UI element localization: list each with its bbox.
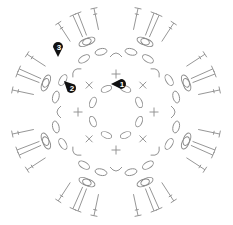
chain-stitch-oval bbox=[181, 132, 192, 147]
double-crochet bbox=[25, 158, 45, 173]
crochet-chart: 123 bbox=[0, 0, 233, 225]
chain-stitch-oval bbox=[172, 120, 181, 133]
single-crochet-plus bbox=[112, 146, 121, 155]
double-crochet bbox=[55, 182, 70, 202]
double-crochet bbox=[149, 14, 162, 37]
chain-stitch-oval bbox=[40, 77, 51, 92]
chain-stitch-oval bbox=[134, 115, 144, 127]
double-crochet bbox=[162, 182, 177, 202]
chain-stitch-oval bbox=[124, 47, 137, 56]
chain-stitch-oval bbox=[78, 176, 93, 187]
double-crochet bbox=[12, 87, 34, 95]
chain-stitch-oval bbox=[100, 84, 112, 94]
chain-arc bbox=[151, 66, 162, 77]
single-crochet-x bbox=[86, 135, 93, 142]
marker-3-text: 3 bbox=[57, 43, 62, 52]
double-crochet bbox=[70, 14, 83, 37]
chain-stitch-oval bbox=[124, 168, 137, 177]
chain-arc bbox=[171, 106, 175, 118]
single-crochet-x bbox=[139, 135, 146, 142]
round-markers: 123 bbox=[53, 42, 126, 95]
chain-stitch-oval bbox=[140, 176, 155, 187]
chain-stitch-oval bbox=[94, 47, 107, 56]
chain-stitch-oval bbox=[134, 96, 144, 108]
chain-stitch-oval bbox=[163, 73, 175, 87]
marker-1-text: 1 bbox=[120, 80, 125, 89]
chain-stitch-oval bbox=[88, 115, 98, 127]
round-marker-2: 2 bbox=[60, 77, 78, 95]
chain-stitch-oval bbox=[100, 130, 112, 140]
chain-stitch-oval bbox=[78, 37, 93, 48]
double-crochet bbox=[198, 129, 220, 137]
chain-stitch-oval bbox=[51, 120, 60, 133]
double-crochet bbox=[12, 129, 34, 137]
chain-arc bbox=[110, 167, 122, 171]
chain-stitch-oval bbox=[94, 168, 107, 177]
double-crochet bbox=[133, 194, 141, 216]
chain-stitch-oval bbox=[41, 136, 52, 151]
chain-arc bbox=[70, 66, 81, 77]
single-crochet-plus bbox=[112, 70, 121, 79]
single-crochet-x bbox=[86, 82, 93, 89]
round-marker-3: 3 bbox=[53, 42, 63, 57]
double-crochet bbox=[91, 8, 99, 30]
chain-stitch-oval bbox=[180, 74, 191, 89]
chain-stitch-oval bbox=[88, 96, 98, 108]
chain-stitch-oval bbox=[119, 130, 131, 140]
chain-arc bbox=[57, 106, 61, 118]
stitch-symbols bbox=[12, 8, 221, 217]
chain-stitch-oval bbox=[136, 36, 151, 47]
chain-stitch-oval bbox=[77, 159, 91, 171]
single-crochet-plus bbox=[150, 108, 159, 117]
double-crochet bbox=[91, 194, 99, 216]
double-crochet bbox=[162, 21, 177, 41]
chain-stitch-oval bbox=[140, 37, 155, 48]
round-marker-1: 1 bbox=[111, 79, 126, 89]
chain-stitch-oval bbox=[141, 159, 155, 171]
double-crochet bbox=[191, 66, 214, 79]
double-crochet bbox=[70, 187, 83, 210]
chain-arc bbox=[110, 53, 122, 57]
double-crochet bbox=[18, 145, 41, 158]
double-crochet bbox=[198, 87, 220, 95]
chain-stitch-oval bbox=[172, 90, 181, 103]
double-crochet bbox=[55, 21, 70, 41]
single-crochet-x bbox=[139, 82, 146, 89]
chain-arc bbox=[151, 147, 162, 158]
double-crochet bbox=[149, 187, 162, 210]
double-crochet bbox=[186, 51, 206, 66]
chain-stitch-oval bbox=[81, 36, 96, 47]
chain-stitch-oval bbox=[81, 177, 96, 188]
chain-stitch-oval bbox=[180, 136, 191, 151]
chain-stitch-oval bbox=[41, 74, 52, 89]
chain-stitch-oval bbox=[141, 53, 155, 65]
double-crochet bbox=[18, 66, 41, 79]
double-crochet bbox=[133, 8, 141, 30]
double-crochet bbox=[186, 158, 206, 173]
chain-stitch-oval bbox=[77, 53, 91, 65]
single-crochet-plus bbox=[74, 108, 83, 117]
double-crochet bbox=[191, 145, 214, 158]
chain-stitch-oval bbox=[51, 90, 60, 103]
chain-stitch-oval bbox=[57, 137, 69, 151]
chain-stitch-oval bbox=[163, 137, 175, 151]
marker-2-text: 2 bbox=[70, 84, 75, 93]
double-crochet bbox=[25, 51, 45, 66]
chain-arc bbox=[70, 147, 81, 158]
